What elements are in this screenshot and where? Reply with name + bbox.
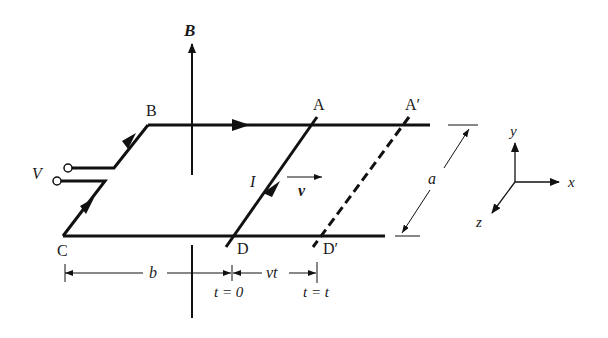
width-dimension <box>395 125 478 236</box>
current-arrow-top-icon <box>232 119 250 131</box>
diagram-canvas: B B C A A′ D D′ V I v a b vt t = 0 t = t… <box>0 0 608 338</box>
current-label: I <box>249 173 256 190</box>
time-t-label: t = t <box>303 284 330 300</box>
displacement-label: vt <box>266 264 278 281</box>
corner-c-label: C <box>57 242 68 259</box>
rail-circuit-diagram: B B C A A′ D D′ V I v a b vt t = 0 t = t… <box>0 0 608 338</box>
point-a-prime-label: A′ <box>405 96 420 113</box>
axis-y-label: y <box>508 123 517 139</box>
coordinate-axes <box>492 143 559 213</box>
point-d-label: D <box>237 240 249 257</box>
corner-b-label: B <box>146 102 157 119</box>
axis-x-label: x <box>567 174 575 190</box>
axis-z-label: z <box>475 214 482 230</box>
point-a-label: A <box>313 96 325 113</box>
top-rail <box>148 119 430 131</box>
time-zero-label: t = 0 <box>214 284 244 300</box>
bar-later-position <box>313 117 409 247</box>
width-label: a <box>428 170 436 187</box>
terminal-upper <box>64 164 72 172</box>
voltage-label: V <box>32 165 44 182</box>
velocity-label: v <box>298 182 306 199</box>
distance-b-label: b <box>149 264 157 281</box>
upper-lead <box>72 125 148 168</box>
field-label: B <box>183 21 195 40</box>
point-d-prime-label: D′ <box>323 240 338 257</box>
terminal-lower <box>53 177 61 185</box>
